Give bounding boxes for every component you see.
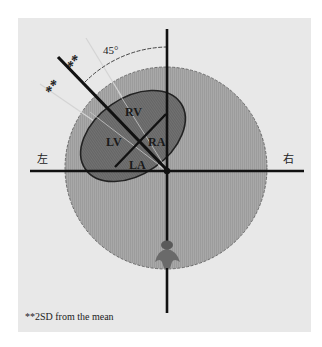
angle-label: 45° <box>103 44 118 56</box>
label-ra: RA <box>148 135 166 149</box>
origin-dot <box>164 168 170 174</box>
stars-lower-annotation: ** <box>42 76 64 97</box>
left-side-label: 左 <box>37 153 48 166</box>
right-side-label: 右 <box>283 152 294 166</box>
footnote: **2SD from the mean <box>25 311 114 322</box>
label-lv: LV <box>106 135 122 149</box>
stars-upper-annotation: ** <box>63 52 85 73</box>
label-rv: RV <box>125 105 142 119</box>
label-la: LA <box>129 158 146 172</box>
cardiac-axis-diagram: ** ** 45° RV LV RA LA 左 右 <box>0 0 322 347</box>
